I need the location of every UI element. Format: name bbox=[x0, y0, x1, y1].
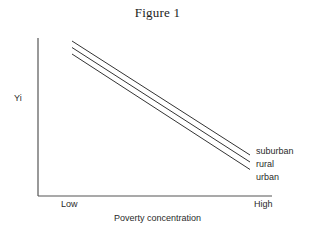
figure-container: Figure 1 Yi Low High Poverty concentrati… bbox=[0, 0, 315, 243]
x-axis-tick-high: High bbox=[254, 199, 273, 209]
x-axis-tick-low: Low bbox=[61, 199, 78, 209]
series-label-rural: rural bbox=[256, 159, 274, 169]
series-label-suburban: suburban bbox=[256, 146, 294, 156]
y-axis-title: Yi bbox=[14, 93, 22, 103]
series-line-urban bbox=[72, 54, 250, 170]
series-line-suburban bbox=[72, 41, 250, 155]
x-axis-title: Poverty concentration bbox=[0, 213, 315, 223]
series-label-urban: urban bbox=[256, 172, 279, 182]
series-line-rural bbox=[72, 48, 250, 163]
